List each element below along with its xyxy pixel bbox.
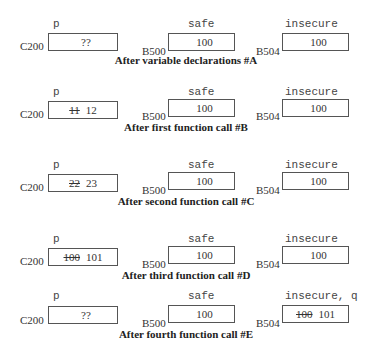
current-value: 12	[86, 104, 97, 116]
memory-cell-safe: 100	[168, 246, 235, 264]
memory-cell-p: ??	[48, 306, 118, 324]
panel-caption: After second function call #C	[0, 195, 372, 207]
address-p: C200	[20, 181, 44, 193]
var-label-safe: safe	[188, 233, 214, 245]
var-label-insecure-q: insecure, q	[285, 290, 358, 302]
panel-e: p C200 ?? safe B500 100 insecure, q B504…	[0, 290, 372, 360]
current-value: 100	[196, 308, 213, 320]
current-value: 100	[310, 102, 327, 114]
old-value: 100	[296, 308, 313, 320]
address-p: C200	[20, 40, 44, 52]
memory-cell-p: 11 12	[48, 101, 118, 119]
var-label-safe: safe	[188, 18, 214, 30]
memory-cell-insecure: 100 101	[282, 305, 349, 323]
panel-caption: After first function call #B	[0, 121, 372, 133]
var-label-insecure: insecure	[285, 18, 338, 30]
address-p: C200	[20, 255, 44, 267]
panel-b: p C200 11 12 safe B500 100 insecure B504…	[0, 70, 372, 140]
old-value: 100	[64, 251, 81, 263]
memory-cell-p: 100 101	[48, 248, 118, 266]
current-value: 101	[86, 251, 103, 263]
var-label-insecure: insecure	[285, 233, 338, 245]
var-label-insecure: insecure	[285, 86, 338, 98]
address-p: C200	[20, 314, 44, 326]
current-value: 100	[196, 102, 213, 114]
var-label-safe: safe	[188, 86, 214, 98]
panel-caption: After fourth function call #E	[0, 328, 372, 340]
var-label-safe: safe	[188, 159, 214, 171]
current-value: 100	[310, 175, 327, 187]
memory-cell-safe: 100	[168, 305, 235, 323]
current-value: 101	[319, 308, 336, 320]
memory-cell-insecure: 100	[282, 246, 349, 264]
memory-cell-safe: 100	[168, 172, 235, 190]
panel-d: p C200 100 101 safe B500 100 insecure B5…	[0, 217, 372, 287]
memory-cell-p: 22 23	[48, 174, 118, 192]
current-value: 100	[196, 249, 213, 261]
current-value: ??	[81, 309, 91, 321]
current-value: 100	[310, 36, 327, 48]
old-value: 11	[69, 104, 80, 116]
var-label-p: p	[53, 18, 60, 30]
memory-cell-insecure: 100	[282, 99, 349, 117]
memory-cell-p: ??	[48, 33, 118, 51]
panel-c: p C200 22 23 safe B500 100 insecure B504…	[0, 143, 372, 213]
var-label-safe: safe	[188, 290, 214, 302]
var-label-p: p	[53, 233, 60, 245]
var-label-p: p	[53, 290, 60, 302]
memory-cell-insecure: 100	[282, 172, 349, 190]
current-value: 100	[310, 249, 327, 261]
current-value: 100	[196, 175, 213, 187]
var-label-p: p	[53, 159, 60, 171]
var-label-insecure: insecure	[285, 159, 338, 171]
current-value: 100	[196, 36, 213, 48]
panel-caption: After variable declarations #A	[0, 54, 372, 66]
memory-cell-safe: 100	[168, 99, 235, 117]
address-p: C200	[20, 108, 44, 120]
current-value: 23	[86, 177, 97, 189]
current-value: ??	[81, 36, 91, 48]
memory-cell-safe: 100	[168, 33, 235, 51]
panel-a: p C200 ?? safe B500 100 insecure B504 10…	[0, 0, 372, 70]
memory-cell-insecure: 100	[282, 33, 349, 51]
panel-caption: After third function call #D	[0, 269, 372, 281]
old-value: 22	[69, 177, 80, 189]
var-label-p: p	[53, 86, 60, 98]
